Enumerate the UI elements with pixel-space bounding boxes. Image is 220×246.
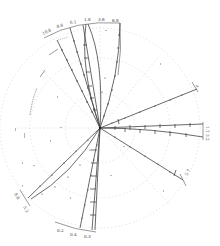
bottom-arc: 0.2 0.4 0.3	[55, 222, 96, 239]
bottom-label-2: 0.3	[84, 234, 91, 239]
right-label-0: 4	[194, 84, 200, 89]
left-label-0: 9.8	[13, 192, 21, 201]
ray-top-5	[88, 24, 101, 128]
right-label-1: 1.7	[205, 126, 210, 133]
left-endcap: 9.8 5.2	[13, 190, 30, 214]
top-label-5: 6.8	[112, 18, 119, 23]
ray-right-3	[100, 128, 203, 137]
bottom-label-1: 0.4	[70, 232, 77, 237]
top-label-1: 8.8	[56, 22, 64, 29]
ray-right-2	[100, 124, 203, 128]
ray-top-6	[100, 23, 120, 128]
scatter-marks	[15, 30, 164, 199]
radial-diagram: 10.8 8.8 6.1 1.8 3.6 6.8	[0, 0, 220, 246]
top-arc	[44, 23, 121, 75]
ray-top-3	[83, 25, 100, 128]
top-label-3: 1.8	[84, 17, 91, 22]
left-arc-segments	[30, 49, 58, 115]
right-label-3: 5.7	[184, 168, 192, 177]
bottom-label-0: 0.2	[57, 228, 64, 233]
top-label-2: 6.1	[69, 19, 77, 25]
top-label-4: 3.6	[98, 17, 105, 22]
rays	[28, 23, 203, 230]
center-point	[99, 127, 101, 129]
right-label-2: 3.2	[205, 134, 210, 141]
ray-top-1	[57, 40, 100, 128]
ray-left-2	[31, 128, 100, 199]
ray-ticks	[39, 34, 190, 218]
left-label-1: 5.2	[22, 205, 30, 214]
right-labels: 4 1.7 3.2 5.7	[184, 84, 210, 177]
